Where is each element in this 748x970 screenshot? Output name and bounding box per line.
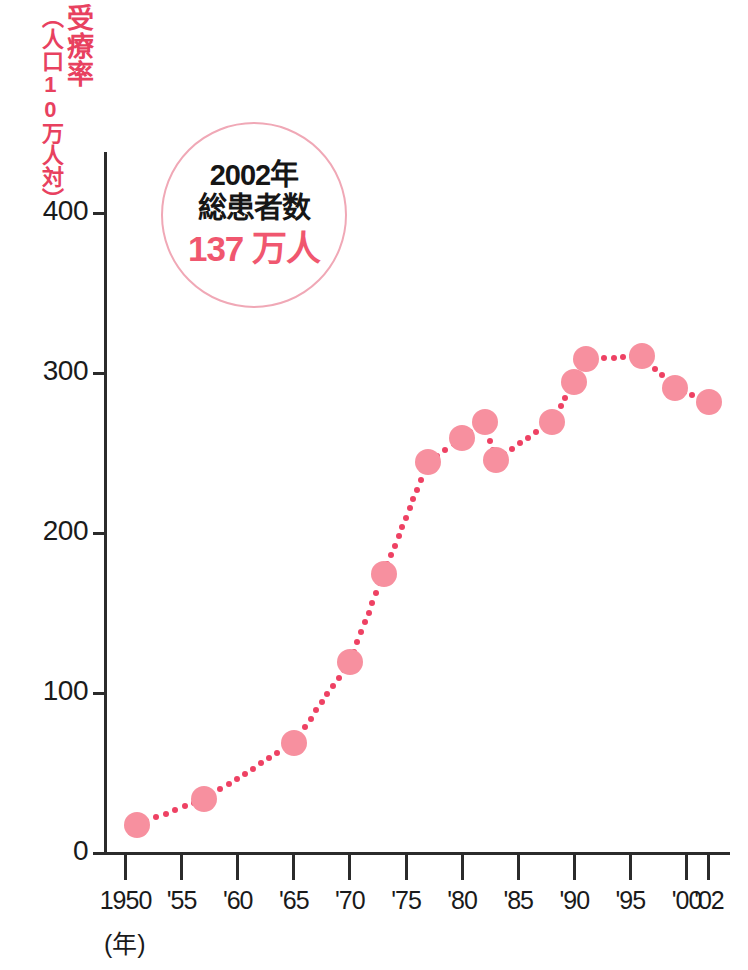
callout-metric-label: 総患者数: [198, 193, 310, 225]
line-dot: [250, 766, 256, 772]
line-dot: [381, 571, 387, 577]
y-tick-label: 400: [8, 195, 88, 227]
line-dot: [490, 447, 496, 453]
line-dot: [652, 366, 658, 372]
line-dot: [639, 353, 645, 359]
line-dot: [425, 459, 431, 465]
line-dot: [571, 379, 577, 385]
line-dot: [354, 639, 360, 645]
y-tick-mark: [93, 372, 106, 375]
line-dot: [579, 364, 585, 370]
x-tick-mark: [685, 855, 688, 880]
data-point: [472, 409, 498, 435]
line-dot: [681, 389, 687, 395]
x-axis-unit-label: (年): [104, 924, 146, 960]
line-dot: [392, 543, 398, 549]
line-dot: [302, 724, 308, 730]
line-dot: [153, 814, 159, 820]
line-dot: [620, 354, 626, 360]
line-dot: [291, 740, 297, 746]
line-dot: [493, 457, 499, 463]
line-dot: [226, 781, 232, 787]
line-dot: [666, 379, 672, 385]
line-dot: [373, 590, 379, 596]
line-dot: [698, 396, 704, 402]
line-dot: [319, 699, 325, 705]
line-dot: [358, 629, 364, 635]
x-tick-mark: [405, 855, 408, 880]
data-point: [281, 730, 307, 756]
line-dot: [442, 447, 448, 453]
total-patients-callout: 2002年 総患者数 137 万人: [161, 122, 347, 308]
data-point: [539, 409, 565, 435]
line-dot: [501, 451, 507, 457]
y-tick-mark: [93, 852, 106, 855]
y-tick-mark: [93, 692, 106, 695]
line-dot: [422, 468, 428, 474]
x-tick-mark: [124, 855, 127, 880]
line-dot: [172, 807, 178, 813]
line-dot: [459, 435, 465, 441]
x-tick-mark: [180, 855, 183, 880]
line-dot: [381, 571, 387, 577]
line-dot: [324, 691, 330, 697]
line-dot: [396, 533, 402, 539]
x-tick-label: '02: [694, 886, 724, 915]
line-dot: [308, 716, 314, 722]
line-dot: [366, 610, 372, 616]
line-dot: [467, 429, 473, 435]
line-dot: [369, 600, 375, 606]
line-dot: [474, 424, 480, 430]
line-dot: [134, 822, 140, 828]
y-tick-label: 300: [8, 355, 88, 387]
data-point: [337, 649, 363, 675]
y-tick-mark: [93, 532, 106, 535]
x-tick-label: '80: [447, 886, 477, 915]
line-dot: [201, 796, 207, 802]
x-tick-mark: [292, 855, 295, 880]
line-dot: [291, 740, 297, 746]
line-dot: [341, 667, 347, 673]
line-dot: [583, 356, 589, 362]
line-dot: [143, 818, 149, 824]
y-axis-title-main: 受療率: [64, 4, 92, 88]
line-dot: [336, 675, 342, 681]
line-dot: [509, 446, 515, 452]
data-point: [191, 786, 217, 812]
line-dot: [283, 745, 289, 751]
plot-area: [0, 0, 748, 970]
chart-root: 受療率 （人口10万人対） 0100200300400 1950'55'60'6…: [0, 0, 748, 970]
line-dot: [296, 732, 302, 738]
line-dot: [399, 524, 405, 530]
line-dot: [629, 353, 635, 359]
line-dot: [330, 683, 336, 689]
line-dot: [459, 435, 465, 441]
y-tick-label: 0: [8, 835, 88, 867]
line-dot: [418, 477, 424, 483]
y-tick-mark: [93, 212, 106, 215]
line-dot: [645, 359, 651, 365]
callout-value: 137 万人: [188, 229, 320, 269]
x-tick-label: '70: [335, 886, 365, 915]
x-tick-mark: [348, 855, 351, 880]
line-dot: [484, 428, 490, 434]
line-dot: [407, 505, 413, 511]
y-axis-title-sub: （人口10万人対）: [39, 6, 62, 210]
line-dot: [525, 435, 531, 441]
line-dot: [347, 659, 353, 665]
line-dot: [493, 457, 499, 463]
data-point: [415, 449, 441, 475]
x-tick-label: '75: [391, 886, 421, 915]
line-dot: [347, 659, 353, 665]
line-dot: [601, 355, 607, 361]
line-dot: [182, 803, 188, 809]
callout-year-label: 2002年: [210, 160, 299, 192]
line-dot: [706, 399, 712, 405]
line-dot: [558, 403, 564, 409]
line-dot: [201, 796, 207, 802]
line-dot: [482, 419, 488, 425]
data-point: [662, 375, 688, 401]
data-point: [124, 812, 150, 838]
line-dot: [487, 438, 493, 444]
data-point: [483, 447, 509, 473]
